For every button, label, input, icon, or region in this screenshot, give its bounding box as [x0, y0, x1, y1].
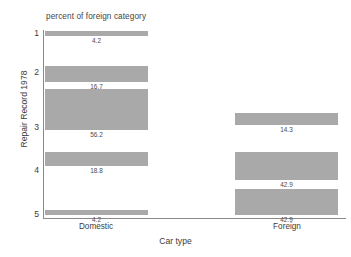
bar-value-label: 14.3 — [235, 126, 338, 133]
y-tick-label: 5 — [25, 209, 39, 219]
chart-figure: percent of foreign category Repair Recor… — [0, 0, 351, 257]
y-tick-label: 2 — [25, 67, 39, 77]
bar-foreign-row-5 — [235, 189, 338, 215]
y-tick-label: 1 — [25, 28, 39, 38]
chart-subtitle: percent of foreign category — [46, 12, 146, 21]
bar-value-label: 56.2 — [45, 131, 148, 138]
bar-domestic-row-2 — [45, 66, 148, 82]
y-tick-label: 4 — [25, 165, 39, 175]
bar-foreign-row-3 — [235, 113, 338, 125]
x-category-domestic: Domestic — [56, 222, 136, 231]
bar-foreign-row-4 — [235, 152, 338, 180]
bar-domestic-row-5 — [45, 210, 148, 215]
bar-domestic-row-1 — [45, 31, 148, 36]
bar-domestic-row-3 — [45, 89, 148, 130]
y-tick-label: 3 — [25, 122, 39, 132]
bar-value-label: 18.8 — [45, 167, 148, 174]
bar-domestic-row-4 — [45, 152, 148, 166]
y-axis-title: Repair Record 1978 — [19, 44, 29, 174]
bar-value-label: 4.2 — [45, 37, 148, 44]
x-axis-title: Car type — [0, 236, 351, 246]
y-axis-line — [43, 30, 44, 218]
bar-value-label: 42.9 — [235, 181, 338, 188]
x-category-foreign: Foreign — [247, 222, 327, 231]
